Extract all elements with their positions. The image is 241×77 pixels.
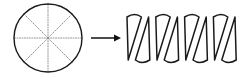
circle-center-point bbox=[47, 37, 49, 39]
geometry-figure bbox=[0, 0, 241, 77]
figure-background bbox=[0, 0, 241, 77]
figure-canvas bbox=[0, 0, 241, 77]
sectored-circle bbox=[14, 4, 82, 72]
